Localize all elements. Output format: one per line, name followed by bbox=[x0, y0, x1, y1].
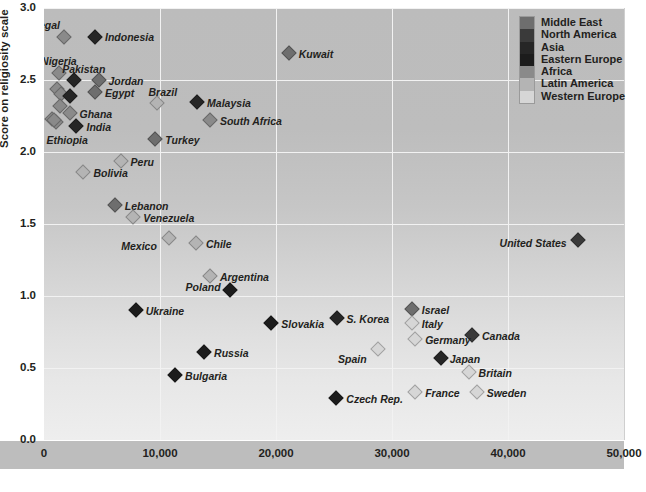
x-tick-label: 20,000 bbox=[231, 447, 321, 459]
legend-swatch bbox=[520, 29, 534, 41]
x-tick-label: 40,000 bbox=[463, 447, 553, 459]
data-point-label: Venezuela bbox=[143, 213, 194, 224]
data-point-label: Spain bbox=[338, 354, 367, 365]
x-tick-label: 50,000 bbox=[579, 447, 646, 459]
data-point-label: Ghana bbox=[80, 109, 113, 120]
data-point[interactable] bbox=[329, 390, 345, 406]
data-point-label: Egypt bbox=[105, 88, 134, 99]
data-point-label: Peru bbox=[131, 157, 154, 168]
data-point-label: Kuwait bbox=[299, 49, 333, 60]
data-point[interactable] bbox=[433, 350, 449, 366]
legend-swatch bbox=[520, 54, 534, 66]
data-point-label: Russia bbox=[214, 348, 248, 359]
data-point-label: Turkey bbox=[165, 135, 199, 146]
data-point[interactable] bbox=[167, 367, 183, 383]
data-point[interactable] bbox=[76, 164, 92, 180]
data-point[interactable] bbox=[461, 365, 477, 381]
data-point-label: Jordan bbox=[109, 76, 144, 87]
legend-label[interactable]: Africa bbox=[541, 65, 625, 77]
legend-label[interactable]: Western Europe bbox=[541, 90, 625, 102]
legend-swatch bbox=[520, 78, 534, 90]
data-point-label: Chile bbox=[206, 239, 232, 250]
x-tick-label: 30,000 bbox=[347, 447, 437, 459]
y-tick-label: 1.0 bbox=[2, 289, 36, 301]
y-tick-label: 0.0 bbox=[2, 433, 36, 445]
data-point-label: Brazil bbox=[149, 87, 178, 98]
legend-swatch bbox=[520, 17, 534, 29]
data-point[interactable] bbox=[281, 45, 297, 61]
legend-label[interactable]: Latin America bbox=[541, 77, 625, 89]
gridline-horizontal bbox=[44, 224, 624, 225]
data-point[interactable] bbox=[188, 235, 204, 251]
data-point-label: Ethiopia bbox=[46, 135, 87, 146]
data-point[interactable] bbox=[202, 113, 218, 129]
gridline-horizontal bbox=[44, 8, 624, 9]
data-point-label: United States bbox=[500, 238, 567, 249]
data-point[interactable] bbox=[56, 29, 72, 45]
legend-swatch bbox=[520, 42, 534, 54]
data-point-label: Israel bbox=[422, 305, 449, 316]
data-point[interactable] bbox=[107, 197, 123, 213]
x-tick-label: 0 bbox=[0, 447, 89, 459]
data-point-label: South Africa bbox=[220, 116, 282, 127]
legend-label[interactable]: Asia bbox=[541, 41, 625, 53]
data-point-label: France bbox=[425, 388, 459, 399]
legend-label[interactable]: Middle East bbox=[541, 16, 625, 28]
legend-swatch bbox=[520, 66, 534, 78]
data-point[interactable] bbox=[87, 29, 103, 45]
gridline-horizontal bbox=[44, 368, 624, 369]
data-point[interactable] bbox=[128, 303, 144, 319]
legend-swatches bbox=[519, 16, 535, 104]
data-point[interactable] bbox=[196, 344, 212, 360]
y-tick-label: 3.0 bbox=[2, 1, 36, 13]
data-point-label: Indonesia bbox=[105, 32, 154, 43]
data-point-label: Argentina bbox=[220, 272, 269, 283]
data-point-label: Italy bbox=[422, 319, 443, 330]
data-point-label: Sweden bbox=[487, 388, 527, 399]
data-point-label: Germany bbox=[425, 335, 471, 346]
x-tick-label: 10,000 bbox=[115, 447, 205, 459]
bottom-strip bbox=[0, 469, 636, 492]
data-point-label: Czech Rep. bbox=[346, 394, 403, 405]
data-point[interactable] bbox=[407, 331, 423, 347]
gridline-horizontal bbox=[44, 296, 624, 297]
y-tick-label: 1.5 bbox=[2, 217, 36, 229]
data-point[interactable] bbox=[407, 385, 423, 401]
data-point-label: Ukraine bbox=[146, 306, 185, 317]
data-point[interactable] bbox=[69, 118, 85, 134]
data-point[interactable] bbox=[370, 341, 386, 357]
data-point-label: Britain bbox=[479, 368, 512, 379]
data-point-label: Canada bbox=[482, 331, 520, 342]
data-point-label: Senegal bbox=[44, 20, 60, 31]
data-point-label: Mexico bbox=[121, 241, 157, 252]
data-point-label: Malaysia bbox=[207, 98, 251, 109]
legend-labels: Middle EastNorth AmericaAsiaEastern Euro… bbox=[541, 16, 625, 104]
legend-label[interactable]: North America bbox=[541, 28, 625, 40]
data-point-label: Japan bbox=[450, 354, 480, 365]
data-point[interactable] bbox=[469, 385, 485, 401]
legend-label[interactable]: Eastern Europe bbox=[541, 53, 625, 65]
data-point[interactable] bbox=[161, 231, 177, 247]
data-point-label: Poland bbox=[186, 282, 221, 293]
data-point[interactable] bbox=[330, 310, 346, 326]
y-tick-label: 2.5 bbox=[2, 73, 36, 85]
legend: Middle EastNorth AmericaAsiaEastern Euro… bbox=[519, 16, 625, 104]
data-point-label: Bulgaria bbox=[185, 371, 227, 382]
data-point[interactable] bbox=[113, 153, 129, 169]
gridline-horizontal bbox=[44, 152, 624, 153]
data-point[interactable] bbox=[570, 232, 586, 248]
data-point-label: Slovakia bbox=[281, 319, 324, 330]
data-point-label: Bolivia bbox=[93, 168, 127, 179]
data-point[interactable] bbox=[404, 316, 420, 332]
data-point-label: India bbox=[86, 122, 111, 133]
data-point[interactable] bbox=[189, 94, 205, 110]
y-tick-label: 2.0 bbox=[2, 145, 36, 157]
data-point-label: S. Korea bbox=[346, 314, 389, 325]
legend-swatch bbox=[520, 91, 534, 103]
y-tick-label: 0.5 bbox=[2, 361, 36, 373]
